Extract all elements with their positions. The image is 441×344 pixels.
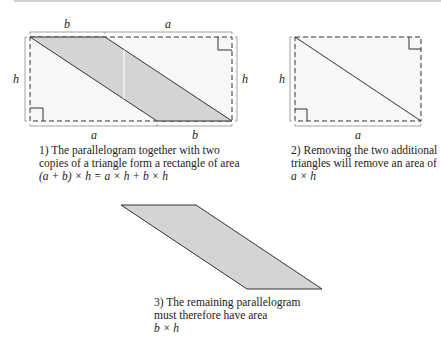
- fig1-label-h-left: h: [13, 73, 19, 85]
- fig1-label-a-top: a: [165, 18, 171, 30]
- fig3-caption-line1: 3) The remaining parallelogram: [154, 296, 354, 309]
- fig2-label-a: a: [355, 129, 361, 141]
- fig2-caption-line2: triangles will remove an area of: [291, 157, 441, 170]
- fig1-caption-line2: copies of a triangle form a rectangle of…: [39, 157, 269, 170]
- fig2-caption-line1: 2) Removing the two additional: [291, 144, 441, 157]
- figure3-parallelogram: [121, 205, 322, 289]
- figure1-rectangle: [25, 32, 237, 126]
- fig2-caption-formula: a × h: [291, 170, 441, 183]
- fig3-caption: 3) The remaining parallelogram must ther…: [154, 296, 354, 335]
- fig1-caption-line1: 1) The parallelogram together with two: [39, 144, 269, 157]
- figure2-rectangle: [290, 37, 421, 126]
- fig1-caption-formula: (a + b) × h = a × h + b × h: [39, 170, 269, 183]
- fig1-label-a-bottom: a: [91, 129, 97, 141]
- fig1-label-b-bottom: b: [192, 129, 198, 141]
- fig2-label-h: h: [279, 73, 285, 85]
- fig2-caption: 2) Removing the two additional triangles…: [291, 144, 441, 183]
- fig3-caption-formula: b × h: [154, 322, 354, 335]
- fig1-label-b-top: b: [64, 18, 70, 30]
- fig1-caption: 1) The parallelogram together with two c…: [39, 144, 269, 183]
- fig3-caption-line2: must therefore have area: [154, 309, 354, 322]
- fig1-label-h-right: h: [242, 73, 248, 85]
